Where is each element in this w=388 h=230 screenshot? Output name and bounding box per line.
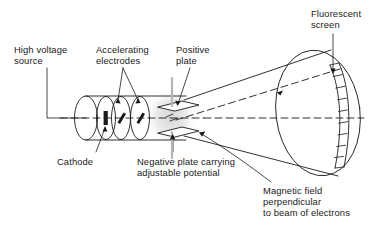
screen-band-segments [330, 63, 348, 168]
label-cathode: Cathode [57, 156, 93, 167]
leader-accelerating-electrodes [118, 68, 123, 100]
diagram-page: High voltage source Accelerating electro… [0, 0, 388, 230]
leader-high-voltage-source [47, 68, 86, 118]
label-accelerating-electrodes: Accelerating electrodes [96, 44, 149, 66]
leader-accelerating-electrodes-branch [123, 68, 138, 100]
screen-band-inner-edge [330, 65, 340, 168]
label-negative-plate-carrying-adjustable-potential: Negative plate carrying adjustable poten… [137, 156, 235, 178]
cathode-element [104, 111, 108, 125]
screen-band-outer-edge [339, 63, 349, 167]
label-positive-plate: Positive plate [176, 44, 210, 66]
fluorescent-screen-face [269, 45, 368, 180]
label-high-voltage-source: High voltage source [14, 44, 67, 66]
label-magnetic-field-perpendicular-to-beam: Magnetic field perpendicular to beam of … [263, 185, 350, 219]
label-fluorescent-screen: Fluorescent screen [311, 8, 361, 30]
arrowheads [103, 69, 336, 140]
